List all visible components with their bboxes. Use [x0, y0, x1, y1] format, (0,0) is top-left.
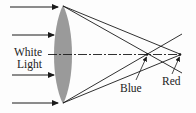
blue-focal-point	[146, 53, 149, 56]
label-blue: Blue	[120, 82, 142, 94]
ray-top-blue	[63, 6, 182, 73]
blue-pointer-arrow	[136, 57, 147, 80]
label-white: White	[14, 46, 42, 58]
red-focal-point	[179, 53, 182, 56]
ray-top-red	[63, 6, 181, 55]
label-red: Red	[162, 75, 181, 87]
diagram-canvas: White Light Blue Red	[0, 0, 196, 113]
chromatic-aberration-diagram: White Light Blue Red	[0, 0, 196, 113]
label-light: Light	[17, 58, 43, 71]
